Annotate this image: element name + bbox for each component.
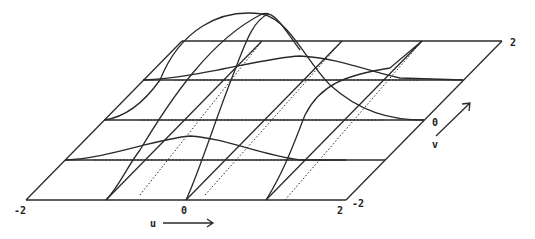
v-axis-label: v [432,139,438,150]
v-max-label: 2 [510,37,516,48]
u-axis-label: u [150,218,156,229]
u-min-label: -2 [14,205,26,216]
u-arrow-icon [163,219,213,227]
surface-plot: -2 0 2 -2 0 2 u v [0,0,535,239]
axis-arrows [163,103,470,227]
u-mid-label: 0 [181,205,187,216]
v-arrow-icon [436,103,470,136]
v-min-label: -2 [352,198,364,209]
v-mid-label: 0 [432,117,438,128]
u-max-label: 2 [337,205,343,216]
